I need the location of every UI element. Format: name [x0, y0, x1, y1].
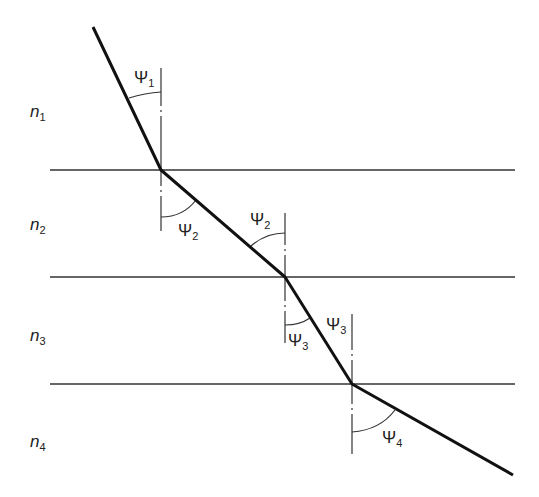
label-n2: n2: [30, 215, 46, 236]
label-psi1: Ψ1: [134, 68, 154, 89]
label-n4: n4: [30, 432, 46, 453]
normals: [161, 68, 352, 454]
arc-psi2-lower: [161, 200, 196, 217]
angle-labels: Ψ1 Ψ2 Ψ2 Ψ3 Ψ3 Ψ4: [134, 68, 402, 449]
arc-psi2-upper: [250, 233, 285, 247]
label-psi3-lower: Ψ3: [288, 331, 308, 352]
medium-labels: n1 n2 n3 n4: [30, 102, 46, 453]
angle-arcs: [129, 92, 395, 432]
label-n1: n1: [30, 102, 46, 123]
arc-psi1: [129, 92, 161, 98]
label-n3: n3: [30, 326, 46, 347]
refraction-diagram: n1 n2 n3 n4 Ψ1 Ψ2 Ψ2 Ψ3 Ψ3 Ψ4: [0, 0, 539, 497]
label-psi2-upper: Ψ2: [250, 210, 270, 231]
interfaces: [50, 170, 515, 384]
label-psi2-lower: Ψ2: [178, 221, 198, 242]
light-ray: [93, 27, 513, 475]
label-psi4: Ψ4: [382, 428, 402, 449]
arc-psi3-lower: [285, 318, 310, 325]
diagram-svg: n1 n2 n3 n4 Ψ1 Ψ2 Ψ2 Ψ3 Ψ3 Ψ4: [0, 0, 539, 497]
label-psi3-upper: Ψ3: [326, 315, 346, 336]
